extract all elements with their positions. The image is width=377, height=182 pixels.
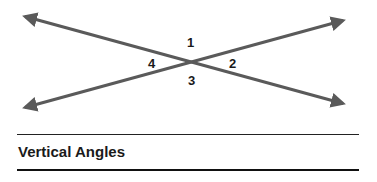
angle-label-4: 4: [148, 57, 155, 70]
top-divider: [17, 134, 359, 135]
angle-label-3: 3: [188, 74, 195, 87]
line-a: [25, 17, 343, 104]
intersecting-lines-diagram: [0, 0, 377, 130]
bottom-divider: [17, 169, 359, 171]
line-b: [25, 21, 343, 108]
angle-label-1: 1: [187, 36, 194, 49]
diagram-title: Vertical Angles: [18, 143, 125, 160]
angle-label-2: 2: [229, 57, 236, 70]
